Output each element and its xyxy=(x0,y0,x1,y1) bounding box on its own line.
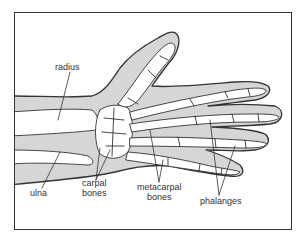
hand-skeleton-illustration xyxy=(0,0,307,241)
label-radius: radius xyxy=(55,62,80,72)
carpal-line-1: carpal xyxy=(82,178,107,188)
carpal-line-2: bones xyxy=(82,188,107,198)
label-metacarpal-bones: metacarpal bones xyxy=(137,182,182,202)
metacarpal-line-2: bones xyxy=(137,192,182,202)
label-ulna: ulna xyxy=(30,188,47,198)
label-phalanges: phalanges xyxy=(200,196,242,206)
label-carpal-bones: carpal bones xyxy=(82,178,107,198)
metacarpal-line-1: metacarpal xyxy=(137,182,182,192)
